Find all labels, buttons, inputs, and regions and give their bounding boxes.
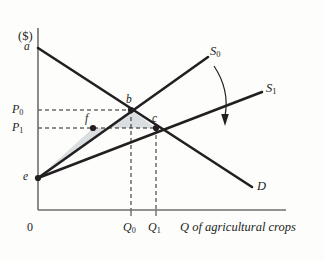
x-tick-q0-base: Q bbox=[123, 220, 132, 234]
axis-lines bbox=[38, 28, 286, 210]
point-label-e: e bbox=[23, 171, 28, 183]
point-label-a: a bbox=[24, 41, 30, 53]
point-marker-c bbox=[153, 125, 159, 131]
x-tick-label-q1: Q1 bbox=[148, 221, 161, 233]
point-label-c: c bbox=[152, 113, 157, 125]
x-tick-q0-sub: 0 bbox=[132, 226, 136, 235]
curve-label-s0: S0 bbox=[210, 45, 221, 58]
shaded-surplus-region bbox=[38, 110, 156, 178]
y-tick-p1-sub: 1 bbox=[19, 126, 23, 135]
x-tick-label-q0: Q0 bbox=[123, 221, 136, 233]
supply-demand-figure: ($) a b c e f P0 P1 S0 S1 D 0 Q0 Q1 Q of… bbox=[0, 0, 324, 261]
supply-curve-s0 bbox=[38, 57, 208, 178]
x-tick-q1-base: Q bbox=[148, 220, 157, 234]
origin-label: 0 bbox=[27, 221, 33, 233]
axis-ticks bbox=[131, 210, 156, 216]
point-marker-f bbox=[90, 125, 96, 131]
point-marker-b bbox=[128, 107, 134, 113]
curve-label-s1: S1 bbox=[266, 82, 277, 95]
point-marker-e bbox=[35, 175, 41, 181]
point-label-b: b bbox=[126, 94, 132, 106]
y-tick-label-p0: P0 bbox=[12, 103, 23, 115]
x-tick-q1-sub: 1 bbox=[157, 226, 161, 235]
y-tick-label-p1: P1 bbox=[12, 121, 23, 133]
supply-shift-arrow bbox=[214, 66, 229, 126]
supply-curve-s1 bbox=[38, 92, 262, 178]
x-axis-label: Q of agricultural crops bbox=[180, 221, 296, 234]
curve-s1-sub: 1 bbox=[272, 86, 276, 96]
curve-label-d: D bbox=[257, 180, 266, 193]
curve-s0-sub: 0 bbox=[216, 49, 220, 59]
point-label-f: f bbox=[85, 113, 88, 125]
shift-arrow-head bbox=[221, 114, 229, 126]
y-tick-p0-sub: 0 bbox=[19, 108, 23, 117]
